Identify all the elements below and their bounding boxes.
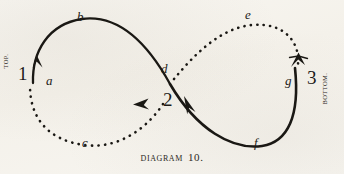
arrow-left-mid-icon: [133, 99, 149, 110]
side-label-top: TOP.: [3, 54, 10, 69]
caption-number: 10.: [188, 151, 204, 163]
point-label-g: g: [285, 74, 292, 87]
point-label-a: a: [46, 74, 53, 87]
solid-curve-left-loop: [33, 18, 170, 84]
point-label-b: b: [77, 10, 84, 23]
point-label-c: c: [82, 136, 88, 149]
arrow-up-right-icon: [290, 53, 308, 68]
caption-word: Diagram: [141, 151, 183, 163]
dotted-curve-left-loop: [30, 86, 163, 146]
figure-caption: Diagram10.: [0, 151, 344, 163]
dotted-curve-right-loop: [174, 25, 298, 79]
node-label-3: 3: [307, 68, 317, 87]
node-label-2: 2: [163, 90, 173, 109]
point-label-d: d: [161, 62, 168, 75]
node-label-1: 1: [18, 64, 28, 83]
side-label-bottom: BOTTOM.: [322, 73, 329, 105]
point-label-f: f: [254, 136, 258, 149]
point-label-e: e: [245, 8, 251, 21]
diagram-figure: 1 2 3 a b c d e f g TOP. BOTTOM. Diagram…: [0, 0, 344, 174]
